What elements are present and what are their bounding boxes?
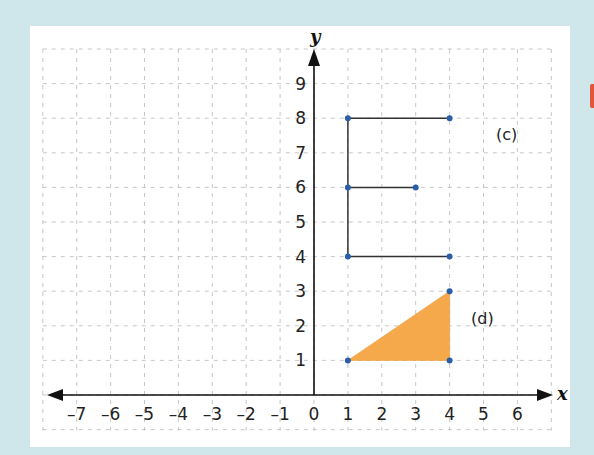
data-point [345,357,351,363]
data-point [447,288,453,294]
y-tick-label: 8 [295,108,306,128]
data-point [413,184,419,190]
x-tick-label: –1 [270,404,289,424]
data-point [447,254,453,260]
x-tick-label: 2 [376,404,387,424]
y-tick-label: 5 [295,212,306,232]
y-tick-label: 6 [295,177,306,197]
triangle-d [348,291,450,360]
data-point [345,184,351,190]
y-tick-label: 2 [295,316,306,336]
x-tick-label: 4 [444,404,455,424]
x-tick-label: 3 [410,404,421,424]
x-axis-label: x [556,383,568,404]
data-point [447,357,453,363]
y-tick-label: 7 [295,143,306,163]
y-tick-label: 3 [295,281,306,301]
x-tick-label: –7 [67,404,86,424]
x-tick-label: –5 [135,404,154,424]
y-axis-up-arrow-icon [308,49,320,66]
x-tick-label: 0 [309,404,320,424]
y-tick-label: 9 [295,74,306,94]
data-point [345,254,351,260]
shape-d-label: (d) [471,309,494,328]
x-tick-label: 5 [478,404,489,424]
grid-lines [43,49,552,431]
y-tick-label: 1 [295,350,306,370]
y-axis-label: y [309,26,322,47]
shape-c-label: (c) [496,125,517,144]
x-tick-label: –3 [203,404,222,424]
x-tick-label: 1 [342,404,353,424]
tick-labels: –7–6–5–4–3–2–10123456123456789 [67,74,523,424]
x-tick-label: –6 [101,404,120,424]
x-tick-label: 6 [512,404,523,424]
x-tick-label: –4 [169,404,188,424]
data-point [345,115,351,121]
axes: x y [47,26,568,404]
y-tick-label: 4 [295,247,306,267]
x-axis-left-arrow-icon [47,389,63,401]
coordinate-plane: x y –7–6–5–4–3–2–10123456123456789 (c) (… [0,0,594,455]
x-axis-right-arrow-icon [537,389,553,401]
data-point [447,115,453,121]
x-tick-label: –2 [237,404,256,424]
